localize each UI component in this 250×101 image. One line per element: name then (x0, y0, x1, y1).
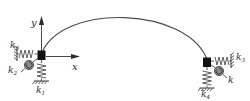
y-axis-arrowhead (39, 16, 44, 25)
spring-label-k3-right: k3 (236, 53, 245, 63)
rotational-spring-right (211, 65, 227, 78)
y-axis-label: y (31, 18, 37, 28)
spring-label-k3-left: k3 (10, 41, 19, 51)
spring-label-k2-left: k2 (8, 66, 17, 76)
vertical-spring-left (33, 60, 50, 84)
diagram-canvas: y x k3 k2 k1 k3 k k4 (0, 0, 250, 101)
x-axis-arrowhead (71, 54, 80, 59)
rotational-spring-left (21, 58, 38, 72)
arch-curve (41, 18, 208, 62)
spring-label-k4-right: k4 (201, 90, 210, 100)
vertical-spring-right (198, 67, 215, 91)
horizontal-spring-right (211, 53, 234, 69)
spring-label-k1-left: k1 (36, 86, 45, 96)
spring-label-k-right: k (228, 76, 233, 86)
left-support-block (38, 51, 46, 61)
x-axis-label: x (72, 62, 78, 72)
right-support-block (203, 58, 211, 68)
